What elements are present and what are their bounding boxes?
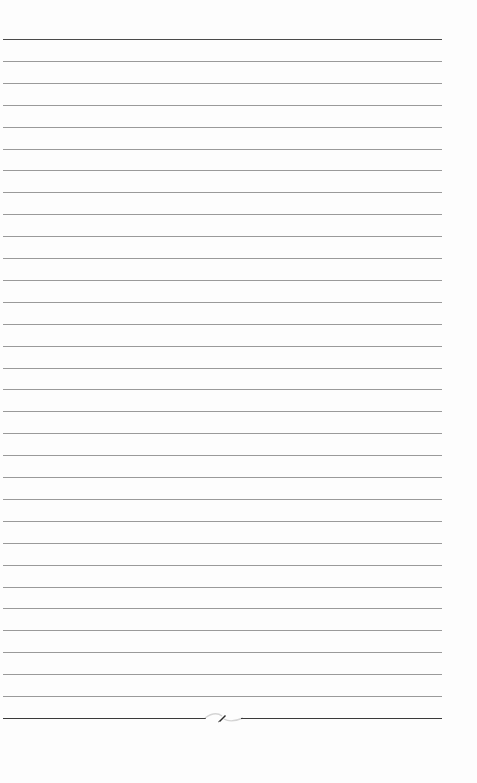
ruled-line [3,630,442,631]
ruled-line [3,83,442,84]
ruled-line [3,565,442,566]
ruled-line [3,149,442,150]
ruled-line [3,214,442,215]
ruled-line [3,674,442,675]
ruled-line [3,105,442,106]
ruled-line [3,696,442,697]
ruled-line [3,127,442,128]
ruled-line [3,652,442,653]
ruled-line [3,543,442,544]
ruled-line [3,368,442,369]
ruled-line [3,302,442,303]
ruled-line [3,608,442,609]
bottom-rule-left [3,718,206,719]
lined-page [0,0,477,783]
ruled-line [3,61,442,62]
ruled-line [3,455,442,456]
ruled-line [3,324,442,325]
ruled-line [3,389,442,390]
ruled-line [3,499,442,500]
ruled-line [3,236,442,237]
ruled-line [3,170,442,171]
ruled-line [3,477,442,478]
ruled-line [3,192,442,193]
ruled-line [3,346,442,347]
ruled-line [3,411,442,412]
ruled-line [3,258,442,259]
quill-flourish-icon [204,710,244,726]
ruled-line [3,433,442,434]
ruled-line [3,521,442,522]
ruled-line [3,39,442,40]
bottom-rule-right [241,718,442,719]
ruled-line [3,587,442,588]
ruled-line [3,280,442,281]
